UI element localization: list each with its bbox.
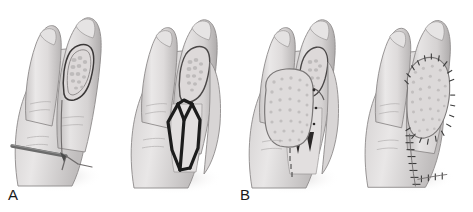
panel-c: C — [236, 0, 354, 212]
figure-container: A — [0, 0, 473, 212]
panel-c-illustration — [236, 0, 354, 212]
panel-label-a: A — [8, 187, 18, 202]
panel-b: B — [118, 0, 236, 212]
panel-d-illustration — [354, 0, 472, 212]
panel-b-illustration — [118, 0, 236, 212]
panel-d: D — [354, 0, 472, 212]
panel-a-illustration — [0, 0, 118, 212]
elevated-flap — [265, 69, 314, 147]
panel-a: A — [0, 0, 118, 212]
